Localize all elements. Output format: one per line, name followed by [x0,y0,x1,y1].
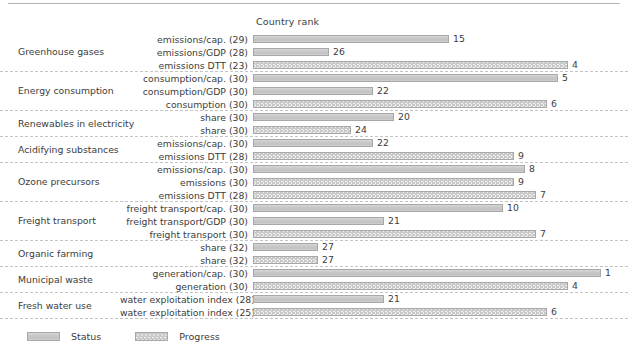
chart-row: emissions/GDP (28)26 [0,46,628,59]
progress-bar [253,191,536,199]
bar-track: 22 [253,137,628,150]
bar-value-label: 20 [398,111,410,123]
indicator-label: emissions/cap. (30) [120,138,248,149]
bar-track: 21 [253,215,628,228]
bar-value-label: 7 [540,189,546,201]
bar-value-label: 21 [388,293,400,305]
indicator-label: emissions (30) [120,177,248,188]
bar-value-label: 21 [388,215,400,227]
bar-value-label: 15 [453,33,465,45]
legend-label-progress: Progress [179,331,220,342]
status-bar [253,269,601,277]
indicator-label: emissions DTT (28) [120,190,248,201]
progress-bar [253,308,547,316]
status-bar [253,243,318,251]
progress-bar [253,61,568,69]
indicator-group: Organic farmingshare (32)27share (32)27 [0,241,628,267]
chart-body: Greenhouse gasesemissions/cap. (29)15emi… [0,33,628,319]
bar-value-label: 9 [518,150,524,162]
chart-row: emissions (30)9 [0,176,628,189]
bar-track: 8 [253,163,628,176]
indicator-group: Freight transportfreight transport/cap. … [0,202,628,241]
chart-row: freight transport (30)7 [0,228,628,241]
bar-track: 15 [253,33,628,46]
indicator-label: consumption/cap. (30) [120,73,248,84]
status-bar [253,87,373,95]
status-bar [253,139,373,147]
indicator-label: emissions/GDP (28) [120,47,248,58]
status-bar [253,165,525,173]
indicator-label: consumption (30) [120,99,248,110]
bar-track: 7 [253,228,628,241]
status-bar [253,74,558,82]
indicator-label: freight transport/cap. (30) [120,203,248,214]
indicator-label: water exploitation index (25) [120,307,248,318]
bar-value-label: 24 [355,124,367,136]
bar-value-label: 9 [518,176,524,188]
progress-bar [253,282,568,290]
bar-track: 10 [253,202,628,215]
bar-value-label: 22 [377,137,389,149]
indicator-label: freight transport/GDP (30) [120,216,248,227]
indicator-label: generation/cap. (30) [120,268,248,279]
chart-row: generation (30)4 [0,280,628,293]
bar-track: 5 [253,72,628,85]
chart-row: freight transport/GDP (30)21 [0,215,628,228]
bar-value-label: 6 [551,306,557,318]
chart-row: consumption/cap. (30)5 [0,72,628,85]
bar-track: 4 [253,280,628,293]
status-bar [253,217,384,225]
chart-row: share (30)24 [0,124,628,137]
indicator-label: generation (30) [120,281,248,292]
indicator-group: Fresh water usewater exploitation index … [0,293,628,319]
bar-track: 7 [253,189,628,202]
status-bar [253,48,329,56]
bar-track: 20 [253,111,628,124]
progress-bar [253,152,514,160]
indicator-label: water exploitation index (28) [120,294,248,305]
bar-track: 6 [253,98,628,111]
legend-swatch-status-icon [27,332,60,341]
indicator-label: consumption/GDP (30) [120,86,248,97]
indicator-label: emissions/cap. (30) [120,164,248,175]
bar-value-label: 27 [322,254,334,266]
country-rank-chart: Country rank Greenhouse gasesemissions/c… [0,0,628,357]
indicator-label: emissions DTT (28) [120,151,248,162]
bar-value-label: 26 [333,46,345,58]
chart-row: emissions DTT (28)9 [0,150,628,163]
bar-value-label: 27 [322,241,334,253]
bar-value-label: 10 [507,202,519,214]
indicator-label: share (30) [120,112,248,123]
bar-value-label: 8 [529,163,535,175]
progress-bar [253,126,351,134]
bar-value-label: 7 [540,228,546,240]
chart-row: emissions/cap. (29)15 [0,33,628,46]
bar-value-label: 6 [551,98,557,110]
bar-track: 9 [253,176,628,189]
bar-track: 27 [253,254,628,267]
chart-row: consumption (30)6 [0,98,628,111]
chart-row: water exploitation index (28)21 [0,293,628,306]
indicator-group: Energy consumptionconsumption/cap. (30)5… [0,72,628,111]
legend-swatch-progress-icon [135,332,168,341]
chart-row: share (32)27 [0,241,628,254]
status-bar [253,204,503,212]
indicator-group: Acidifying substancesemissions/cap. (30)… [0,137,628,163]
indicator-label: emissions DTT (23) [120,60,248,71]
bar-track: 26 [253,46,628,59]
indicator-label: share (32) [120,242,248,253]
chart-row: generation/cap. (30)1 [0,267,628,280]
chart-row: emissions/cap. (30)8 [0,163,628,176]
top-divider [8,3,620,4]
chart-row: consumption/GDP (30)22 [0,85,628,98]
bar-value-label: 4 [572,280,578,292]
progress-bar [253,100,547,108]
status-bar [253,113,394,121]
indicator-label: freight transport (30) [120,229,248,240]
indicator-group: Greenhouse gasesemissions/cap. (29)15emi… [0,33,628,72]
bar-track: 21 [253,293,628,306]
bar-track: 1 [253,267,628,280]
progress-bar [253,256,318,264]
bar-value-label: 22 [377,85,389,97]
bar-track: 4 [253,59,628,72]
